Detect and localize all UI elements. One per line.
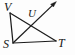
- geometry-figure: V U S T: [0, 0, 75, 55]
- vertex-label-v: V: [4, 1, 11, 13]
- segment-st-line: [13, 41, 56, 43]
- vertex-label-t: T: [58, 37, 65, 49]
- vertex-label-u: U: [28, 8, 36, 19]
- segment-vs-line: [10, 13, 13, 43]
- vertex-label-s: S: [3, 38, 9, 50]
